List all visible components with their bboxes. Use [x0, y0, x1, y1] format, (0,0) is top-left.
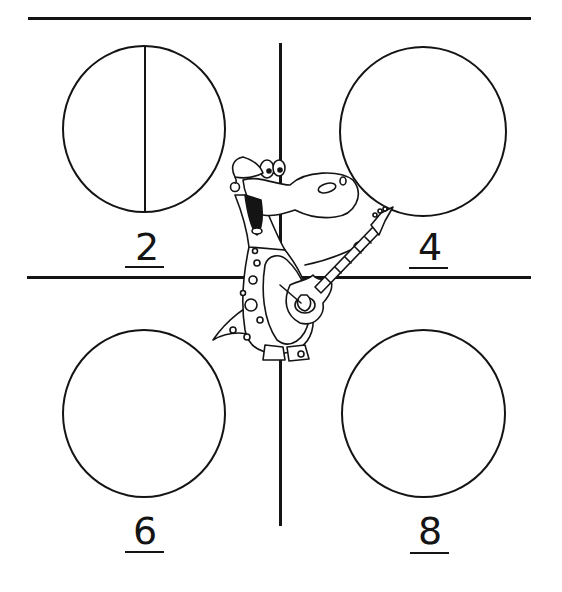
cell-number-label: 8 [410, 512, 450, 550]
number-underline [125, 551, 164, 553]
cell-number-label: 4 [410, 228, 450, 266]
dinosaur-guitar-icon [205, 155, 395, 365]
number-underline [410, 552, 449, 554]
circle-half-divider [144, 46, 146, 212]
top-rule [28, 17, 531, 20]
worksheet: 2 4 6 8 [0, 0, 562, 592]
cell-number-label: 2 [127, 228, 167, 266]
number-underline [125, 266, 164, 268]
number-underline [409, 267, 448, 269]
fraction-circle-6[interactable] [62, 329, 226, 498]
cell-number-label: 6 [125, 512, 165, 550]
